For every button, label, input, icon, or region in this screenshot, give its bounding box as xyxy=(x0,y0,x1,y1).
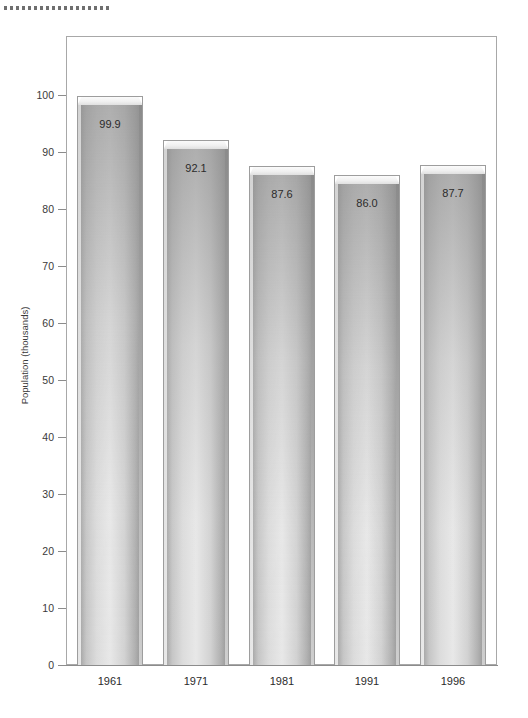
bar-value-label: 92.1 xyxy=(163,163,229,174)
x-axis-category-label: 1981 xyxy=(249,676,315,687)
bar-left-bevel xyxy=(249,175,253,665)
decorative-dot xyxy=(100,6,103,10)
bar-left-bevel xyxy=(334,184,338,665)
bar[interactable]: 92.1 xyxy=(163,140,229,665)
bar-value-label: 87.6 xyxy=(249,189,315,200)
bar-right-bevel xyxy=(225,149,229,665)
y-axis-tick-label: 10 xyxy=(42,603,54,614)
decorative-dot xyxy=(88,6,91,10)
bar-body xyxy=(77,105,143,665)
bar-right-bevel xyxy=(482,174,486,665)
bar-right-bevel xyxy=(311,175,315,665)
y-axis-tick-label: 70 xyxy=(42,261,54,272)
decorative-dot xyxy=(76,6,79,10)
decorative-dot xyxy=(28,6,31,10)
x-axis-line xyxy=(66,665,498,666)
bar-left-bevel xyxy=(420,174,424,665)
decorative-dot xyxy=(82,6,85,10)
y-axis-tick-label: 0 xyxy=(48,660,54,671)
y-axis-tick-label: 60 xyxy=(42,318,54,329)
x-axis-category-label: 1996 xyxy=(420,676,486,687)
decorative-dot-rule xyxy=(4,4,124,12)
bar-right-bevel xyxy=(396,184,400,665)
decorative-dot xyxy=(46,6,49,10)
decorative-dot xyxy=(106,6,109,10)
x-axis-category-label: 1961 xyxy=(77,676,143,687)
y-axis-tick-label: 30 xyxy=(42,489,54,500)
bar-left-bevel xyxy=(77,105,81,665)
x-axis-category-label: 1991 xyxy=(334,676,400,687)
y-axis-tick-label: 100 xyxy=(36,90,54,101)
bar-body xyxy=(163,149,229,665)
y-axis-tick-label: 20 xyxy=(42,546,54,557)
decorative-dot xyxy=(10,6,13,10)
decorative-dot xyxy=(34,6,37,10)
decorative-dot xyxy=(94,6,97,10)
bar-body xyxy=(420,174,486,665)
decorative-dot xyxy=(22,6,25,10)
decorative-dot xyxy=(70,6,73,10)
bar[interactable]: 87.6 xyxy=(249,166,315,665)
decorative-dot xyxy=(58,6,61,10)
y-axis-tick-label: 40 xyxy=(42,432,54,443)
decorative-dot xyxy=(16,6,19,10)
bar-value-label: 99.9 xyxy=(77,119,143,130)
bar[interactable]: 87.7 xyxy=(420,165,486,665)
bar[interactable]: 99.9 xyxy=(77,96,143,665)
bar-value-label: 87.7 xyxy=(420,188,486,199)
y-axis-tick-label: 90 xyxy=(42,147,54,158)
bar[interactable]: 86.0 xyxy=(334,175,400,665)
bar-body xyxy=(249,175,315,665)
bar-body xyxy=(334,184,400,665)
decorative-dot xyxy=(40,6,43,10)
y-axis-title: Population (thousands) xyxy=(19,236,30,476)
decorative-dot xyxy=(64,6,67,10)
bar-right-bevel xyxy=(139,105,143,665)
y-axis-tick-label: 80 xyxy=(42,204,54,215)
y-axis-tick-label: 50 xyxy=(42,375,54,386)
x-axis-category-label: 1971 xyxy=(163,676,229,687)
chart-plot-area: 99.992.187.686.087.7 xyxy=(67,37,496,665)
decorative-dot xyxy=(4,6,7,10)
bar-value-label: 86.0 xyxy=(334,198,400,209)
decorative-dot xyxy=(52,6,55,10)
bar-left-bevel xyxy=(163,149,167,665)
